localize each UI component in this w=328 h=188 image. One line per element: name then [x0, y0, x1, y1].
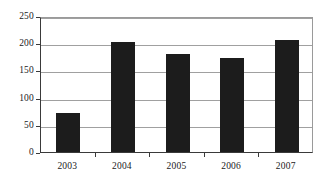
x-tick — [95, 153, 96, 157]
bar-2004 — [111, 42, 135, 152]
x-tick-label: 2006 — [204, 160, 259, 172]
y-tick-label: 200 — [0, 38, 34, 48]
x-axis-labels: 20032004200520062007 — [40, 160, 313, 176]
y-tick-200 — [36, 44, 40, 45]
y-tick-label: 0 — [0, 147, 34, 157]
x-tick-label: 2007 — [258, 160, 313, 172]
x-tick — [149, 153, 150, 157]
y-tick-label: 250 — [0, 11, 34, 21]
bar-2005 — [166, 54, 190, 152]
x-tick-label: 2005 — [149, 160, 204, 172]
x-axis-ticks — [40, 153, 313, 159]
x-tick — [258, 153, 259, 157]
y-axis-labels: 050100150200250 — [0, 0, 36, 188]
plot-area — [40, 17, 313, 153]
y-tick-250 — [36, 17, 40, 18]
y-tick-50 — [36, 126, 40, 127]
bar-2007 — [275, 40, 299, 152]
x-tick-label: 2003 — [40, 160, 95, 172]
y-tick-label: 100 — [0, 93, 34, 103]
bars — [41, 18, 312, 152]
y-tick-100 — [36, 99, 40, 100]
y-tick-label: 50 — [0, 120, 34, 130]
bar-2006 — [220, 58, 244, 152]
x-tick-label: 2004 — [95, 160, 150, 172]
bar-2003 — [56, 113, 80, 152]
y-tick-0 — [36, 153, 40, 154]
x-tick — [204, 153, 205, 157]
bar-chart: 050100150200250 20032004200520062007 — [0, 0, 328, 188]
y-tick-150 — [36, 71, 40, 72]
y-tick-label: 150 — [0, 65, 34, 75]
